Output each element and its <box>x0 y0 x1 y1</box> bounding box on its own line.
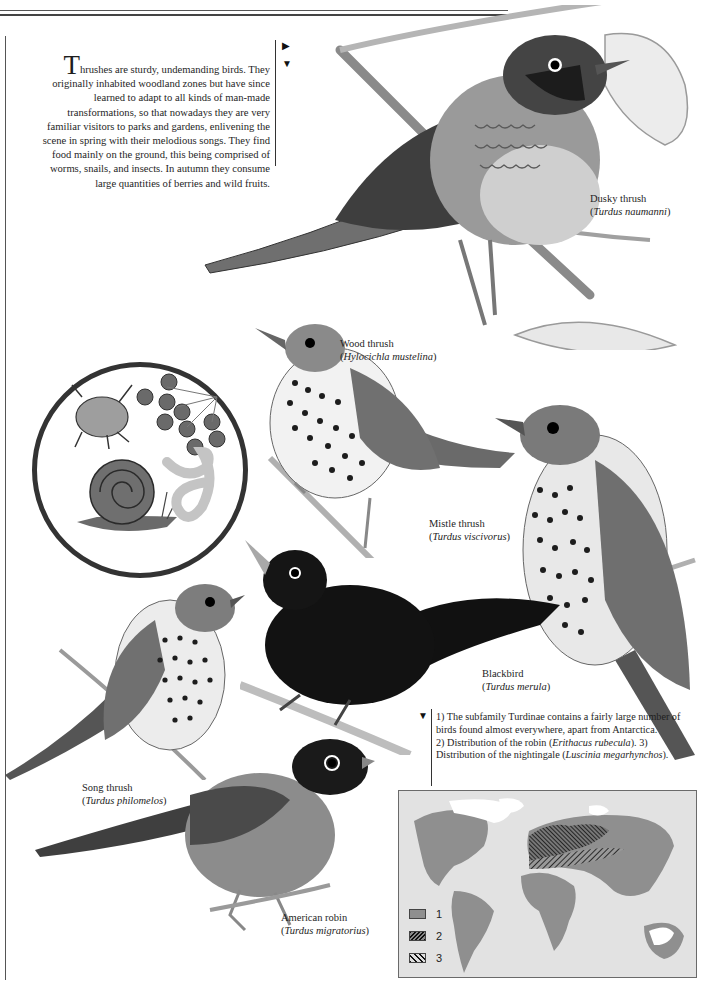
legend-swatch-dense-hatch <box>409 931 426 941</box>
common-name: Blackbird <box>482 667 550 680</box>
caption-dusky-thrush: Dusky thrush (Turdus naumanni) <box>590 192 670 218</box>
legend-label: 3 <box>436 952 442 964</box>
south-america <box>452 891 495 973</box>
legend-item-2: 2 <box>409 930 442 942</box>
worm-icon <box>167 452 210 517</box>
robin-scientific-name: Erithacus rubecula <box>552 737 630 748</box>
down-arrow-icon: ▼ <box>418 711 428 721</box>
legend-item-3: 3 <box>409 952 442 964</box>
common-name: American robin <box>281 911 369 924</box>
common-name: Wood thrush <box>340 337 437 350</box>
left-margin-rule <box>5 36 6 980</box>
scientific-name: Hylocichla mustelina <box>344 351 434 362</box>
american-robin-illustration <box>30 735 380 935</box>
caption-wood-thrush: Wood thrush (Hylocichla mustelina) <box>340 337 437 363</box>
scientific-name: Turdus merula <box>486 681 547 692</box>
beetle-icon <box>72 385 132 449</box>
drop-cap: T <box>63 50 80 80</box>
note-2-text: 2) Distribution of the robin ( <box>436 737 552 748</box>
note-1: 1) The subfamily Turdinae contains a fai… <box>436 711 680 735</box>
legend-label: 2 <box>436 930 442 942</box>
caption-american-robin: American robin (Turdus migratorius) <box>281 911 369 937</box>
nightingale-scientific-name: Luscinia megarhynchos <box>566 749 663 760</box>
common-name: Dusky thrush <box>590 192 670 205</box>
scientific-name: Turdus naumanni <box>594 206 667 217</box>
caption-blackbird: Blackbird (Turdus merula) <box>482 667 550 693</box>
scientific-name: Turdus migratorius <box>285 925 366 936</box>
distribution-map: 1 2 3 <box>398 790 697 978</box>
common-name: Mistle thrush <box>429 517 510 530</box>
legend-label: 1 <box>436 908 442 920</box>
distribution-notes: 1) The subfamily Turdinae contains a fai… <box>436 711 686 762</box>
snail-icon <box>77 460 179 531</box>
notes-side-rule <box>431 709 432 786</box>
legend-swatch-solid <box>409 909 426 919</box>
dusky-thrush-illustration <box>195 5 705 350</box>
africa <box>521 873 576 951</box>
berries-icon <box>137 374 225 455</box>
legend-swatch-diagonal-hatch <box>409 953 426 963</box>
diet-inset-circle <box>32 362 248 578</box>
legend-item-1: 1 <box>409 908 442 920</box>
note-end: ). <box>662 749 668 760</box>
north-america <box>414 810 488 886</box>
